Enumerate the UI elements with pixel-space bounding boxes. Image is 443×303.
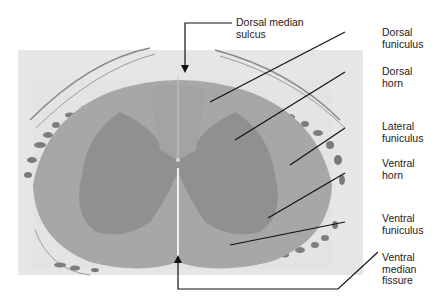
label-line: Dorsal <box>382 27 423 39</box>
label-line: fissure <box>382 275 416 287</box>
label-line: funiculus <box>382 133 423 145</box>
label-dorsal-funiculus: Dorsal funiculus <box>382 27 423 50</box>
label-line: funiculus <box>382 39 423 51</box>
label-line: Ventral <box>382 252 416 264</box>
label-dorsal-horn: Dorsal horn <box>382 66 412 89</box>
label-line: Ventral <box>382 213 423 225</box>
label-line: Ventral <box>382 158 415 170</box>
spinal-cord-figure: Dorsal median sulcus Dorsal funiculus Do… <box>0 0 443 303</box>
label-line: Dorsal median <box>236 17 304 29</box>
label-line: Dorsal <box>382 66 412 78</box>
label-ventral-median-fissure: Ventral median fissure <box>382 252 416 287</box>
label-line: Lateral <box>382 121 423 133</box>
label-lateral-funiculus: Lateral funiculus <box>382 121 423 144</box>
histology-image <box>0 0 443 303</box>
label-ventral-funiculus: Ventral funiculus <box>382 213 423 236</box>
label-line: horn <box>382 170 415 182</box>
label-line: funiculus <box>382 225 423 237</box>
label-dorsal-median-sulcus: Dorsal median sulcus <box>236 17 304 40</box>
label-line: sulcus <box>236 29 304 41</box>
label-line: horn <box>382 78 412 90</box>
label-ventral-horn: Ventral horn <box>382 158 415 181</box>
